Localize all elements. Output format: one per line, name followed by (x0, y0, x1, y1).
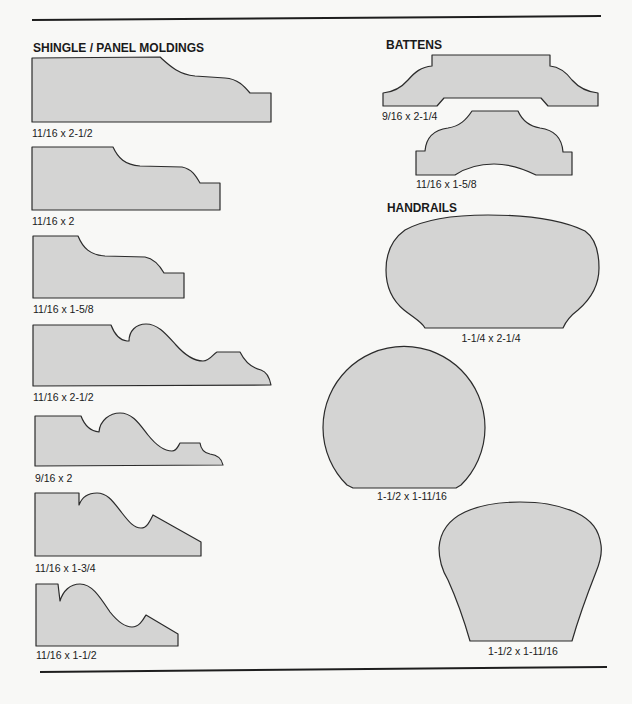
profile-shape (33, 236, 184, 298)
profile-shape (323, 346, 485, 488)
profile-shape (383, 55, 598, 106)
profile-size-label: 1-1/2 x 1-11/16 (377, 490, 447, 502)
profile-size-label: 11/16 x 1-1/2 (36, 649, 97, 661)
profile-shape (36, 584, 178, 646)
profile-size-label: 9/16 x 2 (35, 472, 73, 484)
catalog-page: SHINGLE / PANEL MOLDINGS 11/16 x 2-1/2 1… (0, 0, 632, 704)
profile-shape (32, 147, 220, 210)
profile-shape (33, 324, 271, 386)
profile-size-label: 11/16 x 2-1/2 (32, 127, 93, 139)
section-handrails: HANDRAILS 1-1/4 x 2-1/4 1-1/2 x 1-11/16 … (323, 201, 601, 657)
profile-shape (386, 215, 599, 328)
profile-shape (416, 111, 572, 175)
section-title: HANDRAILS (387, 201, 457, 215)
profile-size-label: 11/16 x 1-5/8 (33, 303, 94, 315)
bottom-rule (40, 667, 607, 672)
profile-size-label: 9/16 x 2-1/4 (382, 110, 438, 122)
section-title: SHINGLE / PANEL MOLDINGS (33, 41, 204, 55)
molding-profile-6: 11/16 x 1-3/4 (35, 493, 201, 574)
profile-size-label: 11/16 x 2 (32, 215, 75, 227)
profile-shape (35, 493, 201, 556)
profile-size-label: 1-1/2 x 1-11/16 (488, 645, 558, 657)
molding-profile-7: 11/16 x 1-1/2 (36, 584, 178, 661)
top-rule (32, 16, 601, 20)
handrail-profile-2: 1-1/2 x 1-11/16 (323, 346, 485, 502)
batten-profile-2: 11/16 x 1-5/8 (416, 111, 572, 190)
molding-profile-2: 11/16 x 2 (32, 147, 220, 227)
profile-shape (439, 502, 601, 641)
molding-profile-1: 11/16 x 2-1/2 (32, 57, 271, 139)
profile-shape (32, 57, 271, 122)
profile-shape (35, 413, 223, 466)
profile-size-label: 11/16 x 1-3/4 (35, 562, 96, 574)
profile-size-label: 11/16 x 2-1/2 (33, 391, 94, 403)
profile-size-label: 1-1/4 x 2-1/4 (462, 332, 521, 344)
section-title: BATTENS (386, 38, 442, 52)
molding-profile-4: 11/16 x 2-1/2 (33, 324, 271, 403)
molding-profile-5: 9/16 x 2 (35, 413, 223, 484)
handrail-profile-1: 1-1/4 x 2-1/4 (386, 215, 599, 344)
section-battens: BATTENS 9/16 x 2-1/4 11/16 x 1-5/8 (382, 38, 598, 190)
handrail-profile-3: 1-1/2 x 1-11/16 (439, 502, 601, 657)
profile-size-label: 11/16 x 1-5/8 (416, 178, 477, 190)
molding-profile-3: 11/16 x 1-5/8 (33, 236, 184, 315)
section-shingle-panel-moldings: SHINGLE / PANEL MOLDINGS 11/16 x 2-1/2 1… (32, 41, 271, 661)
